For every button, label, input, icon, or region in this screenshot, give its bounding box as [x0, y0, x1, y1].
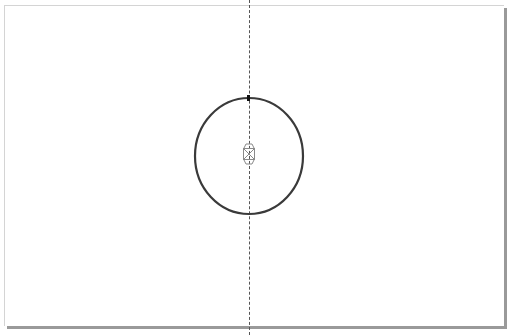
ellipse-shape[interactable] — [195, 98, 303, 214]
shapes-layer — [0, 0, 511, 335]
node-handle-icon[interactable] — [247, 95, 250, 101]
rotation-center-icon[interactable] — [244, 144, 255, 164]
drawing-canvas[interactable] — [0, 0, 511, 335]
